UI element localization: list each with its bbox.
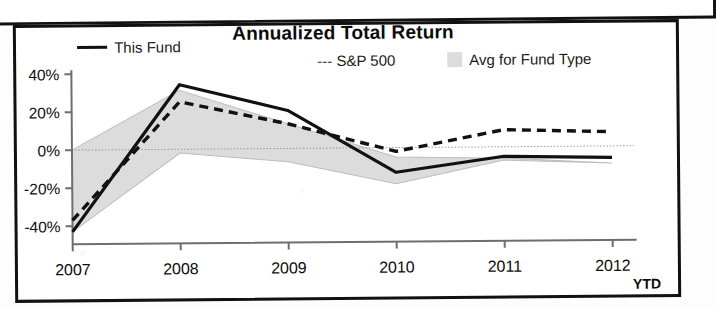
y-tick-label: 0% (37, 142, 60, 159)
y-tick-label: -20% (24, 180, 61, 197)
x-tick-label: 2008 (163, 260, 199, 277)
x-tick-label: 2007 (55, 261, 91, 278)
series-band-avg-fund-type (71, 87, 612, 232)
y-tick-labels: 40%20%0%-20%-40% (23, 66, 61, 235)
x-tick-labels: 200720082009201020112012 (55, 257, 631, 279)
x-tick-label: 2011 (488, 258, 523, 275)
plot-area: 40%20%0%-20%-40% 20072008200920102011201… (0, 0, 689, 309)
x-axis-ytd-suffix: YTD (633, 276, 661, 292)
x-tick-label: 2012 (595, 257, 631, 274)
y-tick-label: 20% (29, 104, 60, 121)
y-tick-label: 40% (28, 66, 59, 83)
x-tick-label: 2010 (379, 258, 415, 275)
y-tick-label: -40% (24, 218, 61, 235)
chart-figure: Annualized Total Return This Fund --- S&… (0, 0, 689, 309)
x-tick-label: 2009 (271, 259, 307, 276)
